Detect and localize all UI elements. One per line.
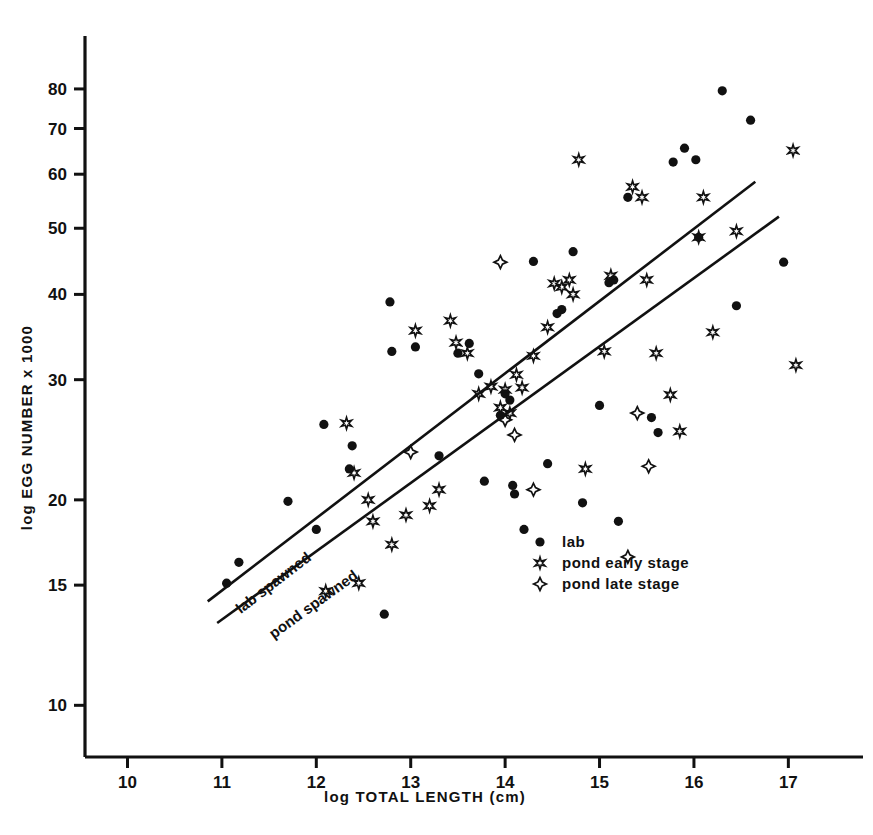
x-tick-label-16: 16 xyxy=(684,773,703,792)
data-point-pond-early-stage xyxy=(434,484,444,496)
data-point-pond-late-stage xyxy=(642,460,655,473)
data-point-lab xyxy=(669,158,678,167)
data-point-lab xyxy=(465,339,474,348)
legend-label-pond-late-stage: pond late stage xyxy=(562,575,680,592)
x-tick-label-17: 17 xyxy=(779,773,798,792)
data-point-pond-early-stage xyxy=(401,509,411,521)
data-point-lab xyxy=(519,525,528,534)
data-point-pond-early-stage xyxy=(410,325,420,337)
legend-marker-filled-circle xyxy=(535,537,544,546)
data-point-pond-early-stage xyxy=(542,321,552,333)
data-point-pond-early-stage xyxy=(791,359,801,371)
fit-line-pond-spawned xyxy=(217,217,779,623)
data-point-lab xyxy=(387,347,396,356)
data-point-pond-early-stage xyxy=(341,417,351,429)
data-point-lab xyxy=(385,297,394,306)
data-point-lab xyxy=(283,497,292,506)
data-point-pond-late-stage xyxy=(631,407,644,420)
data-point-lab xyxy=(529,257,538,266)
data-point-lab xyxy=(411,342,420,351)
data-point-pond-early-stage xyxy=(568,288,578,300)
data-point-lab xyxy=(647,413,656,422)
data-point-pond-early-stage xyxy=(642,274,652,286)
data-point-pond-early-stage xyxy=(451,337,461,349)
data-point-pond-late-stage xyxy=(404,446,417,459)
data-point-pond-early-stage xyxy=(495,402,505,414)
data-point-lab xyxy=(568,247,577,256)
data-point-pond-early-stage xyxy=(698,191,708,203)
data-point-pond-early-stage xyxy=(731,225,741,237)
data-point-pond-early-stage xyxy=(627,181,637,193)
data-point-pond-early-stage xyxy=(517,382,527,394)
data-point-pond-early-stage xyxy=(665,389,675,401)
y-tick-label-40: 40 xyxy=(48,285,67,304)
data-point-lab xyxy=(691,155,700,164)
y-tick-label-15: 15 xyxy=(48,576,67,595)
data-point-pond-early-stage xyxy=(651,347,661,359)
legend-label-pond-early-stage: pond early stage xyxy=(562,554,689,571)
data-point-pond-early-stage xyxy=(637,191,647,203)
y-tick-label-30: 30 xyxy=(48,371,67,390)
data-point-lab xyxy=(779,258,788,267)
data-point-lab xyxy=(595,401,604,410)
data-point-lab xyxy=(718,86,727,95)
y-axis-title: log EGG NUMBER x 1000 xyxy=(18,325,35,530)
data-point-lab xyxy=(508,481,517,490)
data-point-lab xyxy=(510,489,519,498)
data-point-pond-early-stage xyxy=(462,347,472,359)
x-axis-title: log TOTAL LENGTH (cm) xyxy=(324,788,526,805)
y-tick-label-80: 80 xyxy=(48,80,67,99)
data-point-pond-early-stage xyxy=(368,515,378,527)
data-point-lab xyxy=(543,459,552,468)
data-point-pond-early-stage xyxy=(424,500,434,512)
data-point-lab xyxy=(614,517,623,526)
data-point-pond-late-stage xyxy=(494,256,507,269)
data-point-pond-early-stage xyxy=(387,539,397,551)
x-tick-label-15: 15 xyxy=(590,773,609,792)
data-point-pond-early-stage xyxy=(788,144,798,156)
data-point-lab xyxy=(474,369,483,378)
legend-label-lab: lab xyxy=(562,533,585,550)
data-point-lab xyxy=(578,498,587,507)
data-point-lab xyxy=(653,428,662,437)
data-point-pond-early-stage xyxy=(675,425,685,437)
y-tick-label-50: 50 xyxy=(48,219,67,238)
figure-root: 1015203040506070801011121314151617log TO… xyxy=(0,0,873,835)
y-tick-label-60: 60 xyxy=(48,165,67,184)
data-point-lab xyxy=(380,610,389,619)
data-point-lab xyxy=(732,301,741,310)
data-point-lab xyxy=(348,441,357,450)
x-tick-label-11: 11 xyxy=(213,773,231,792)
x-tick-label-10: 10 xyxy=(118,773,137,792)
data-point-pond-late-stage xyxy=(527,483,540,496)
data-point-lab xyxy=(319,420,328,429)
data-point-pond-early-stage xyxy=(708,326,718,338)
data-point-pond-early-stage xyxy=(445,315,455,327)
data-point-lab xyxy=(746,116,755,125)
y-tick-label-20: 20 xyxy=(48,491,67,510)
scatter-plot-canvas: 1015203040506070801011121314151617log TO… xyxy=(0,0,873,835)
legend-marker-open-four-star xyxy=(534,578,547,591)
data-point-pond-early-stage xyxy=(574,154,584,166)
data-point-pond-early-stage xyxy=(511,369,521,381)
y-tick-label-10: 10 xyxy=(48,696,67,715)
data-point-lab xyxy=(557,305,566,314)
data-point-lab xyxy=(480,477,489,486)
y-tick-label-70: 70 xyxy=(48,120,67,139)
data-point-pond-early-stage xyxy=(363,494,373,506)
fit-line-lab-spawned xyxy=(208,182,756,602)
legend-marker-open-six-star xyxy=(535,557,545,569)
data-point-lab xyxy=(680,144,689,153)
data-point-lab xyxy=(234,558,243,567)
data-point-pond-late-stage xyxy=(508,429,521,442)
data-point-lab xyxy=(345,464,354,473)
x-tick-label-12: 12 xyxy=(307,773,326,792)
data-point-pond-early-stage xyxy=(580,463,590,475)
data-point-lab xyxy=(623,193,632,202)
data-point-lab xyxy=(312,525,321,534)
data-point-lab xyxy=(505,396,514,405)
